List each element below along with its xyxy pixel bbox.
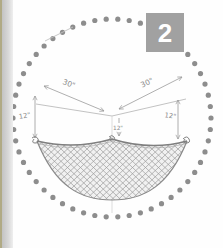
hammock-sketch: [0, 120, 223, 215]
dim-label-left-drop: 12": [18, 111, 31, 121]
dim-label-center-drop: 12": [113, 125, 123, 131]
dim-right-drop: 12": [164, 100, 178, 139]
page-gutter-shading: [2, 0, 13, 248]
dim-right-span: 30": [119, 76, 182, 109]
step-badge: 2: [146, 13, 184, 52]
dim-left-span: 30": [44, 77, 104, 111]
dim-label-right-span: 30": [139, 76, 155, 90]
dim-left-drop: 12": [18, 96, 35, 138]
dim-label-left-span: 30": [61, 77, 76, 90]
book-page: 30" 30" 12" 12" 12": [0, 0, 223, 248]
sketch-stray-line: [45, 27, 73, 41]
step-number: 2: [158, 20, 172, 46]
dim-center-drop: 12": [113, 118, 123, 136]
wall-corner-lines: [36, 99, 186, 116]
dim-label-right-drop: 12": [164, 111, 177, 121]
hammock-diagram: 30" 30" 12" 12" 12": [0, 0, 223, 248]
